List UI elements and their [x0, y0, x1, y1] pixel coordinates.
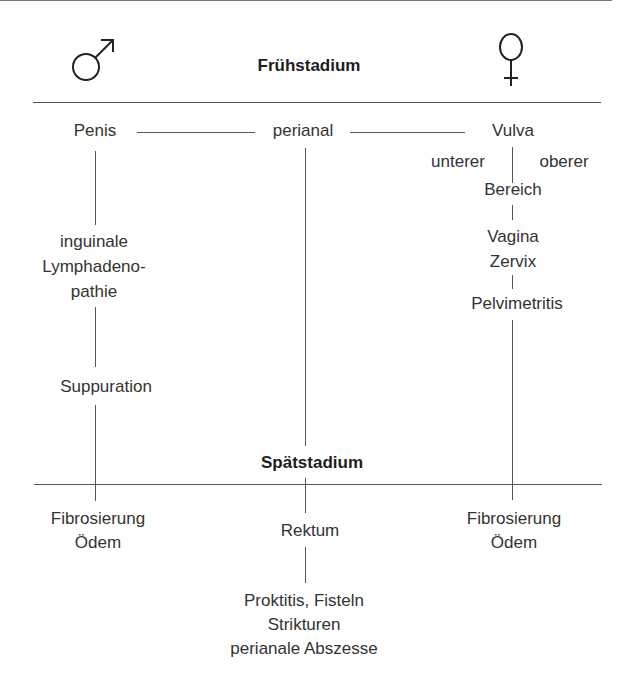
- female-pelvimetritis: Pelvimetritis: [471, 293, 563, 314]
- site-perianal: perianal: [273, 120, 334, 141]
- late-stage-rule: [34, 484, 602, 485]
- female-symbol-icon: [494, 32, 528, 88]
- top-rule: [0, 0, 612, 1]
- female-late-effects: Fibrosierung Ödem: [467, 508, 562, 553]
- female-line-2: [512, 205, 513, 220]
- female-vagina-cervix: Vagina Zervix: [487, 226, 539, 272]
- male-line-3: [95, 405, 96, 501]
- male-line-1: [95, 151, 96, 225]
- female-sub-lower: unterer: [431, 151, 485, 172]
- center-line-3: [305, 547, 306, 583]
- center-late-effects: Proktitis, Fisteln Strikturen perianale …: [230, 590, 377, 659]
- male-suppuration: Suppuration: [60, 376, 152, 397]
- early-stage-heading: Frühstadium: [258, 56, 361, 76]
- female-line-3: [512, 275, 513, 289]
- early-stage-rule: [33, 102, 601, 103]
- center-line-1: [305, 148, 306, 446]
- connector-penis-perianal: [137, 132, 255, 133]
- male-late-effects: Fibrosierung Ödem: [51, 508, 146, 553]
- female-sub-upper: oberer: [539, 151, 588, 172]
- center-rektum: Rektum: [281, 520, 340, 541]
- late-stage-heading: Spätstadium: [261, 453, 363, 473]
- female-sub-region: Bereich: [484, 179, 542, 200]
- male-line-2: [95, 307, 96, 367]
- connector-perianal-vulva: [350, 132, 465, 133]
- male-symbol-icon: [70, 34, 118, 84]
- site-penis: Penis: [74, 120, 117, 141]
- female-line-4: [512, 320, 513, 500]
- site-vulva: Vulva: [492, 120, 534, 141]
- female-line-1: [512, 147, 513, 183]
- male-lymphadenopathy: inguinale Lymphadeno- pathie: [42, 231, 145, 302]
